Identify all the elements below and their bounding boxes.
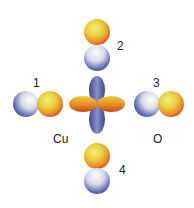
oxygen-p-orbital-1 xyxy=(13,91,63,117)
o-atom-label: O xyxy=(153,133,162,145)
orbital-label-3: 3 xyxy=(153,77,160,89)
orbital-diagram: 1 2 3 4 Cu O xyxy=(0,0,194,208)
copper-d-orbital xyxy=(69,76,125,134)
oxygen-p-orbital-2 xyxy=(84,19,110,71)
orbital-label-2: 2 xyxy=(117,40,124,52)
cu-atom-label: Cu xyxy=(53,133,68,145)
orbitals-graphic xyxy=(0,0,194,208)
oxygen-p-orbital-4 xyxy=(84,143,110,194)
oxygen-p-orbital-3 xyxy=(134,91,184,117)
orbital-label-1: 1 xyxy=(33,77,40,89)
orbital-label-4: 4 xyxy=(119,164,126,176)
